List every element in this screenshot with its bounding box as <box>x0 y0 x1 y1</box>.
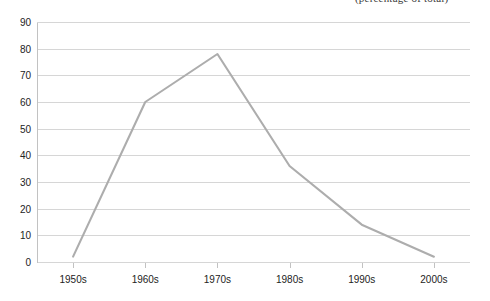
x-axis-tick-label: 1990s <box>348 274 375 285</box>
x-axis-tick-label: 2000s <box>420 274 447 285</box>
y-axis-tick-label: 40 <box>20 150 32 161</box>
y-axis-tick-label: 70 <box>20 70 32 81</box>
x-axis-tick-label: 1980s <box>276 274 303 285</box>
gridlines-group <box>37 23 470 263</box>
y-axis-tick-label: 50 <box>20 124 32 135</box>
y-axis-tick-label: 10 <box>20 230 32 241</box>
y-axis-tick-label: 90 <box>20 17 32 28</box>
y-axis-tick-label: 60 <box>20 97 32 108</box>
x-axis-tick-labels: 1950s1960s1970s1980s1990s2000s <box>59 274 447 285</box>
y-axis-tick-label: 80 <box>20 44 32 55</box>
line-chart-plot: 0102030405060708090 1950s1960s1970s1980s… <box>0 0 490 301</box>
y-axis-tick-labels: 0102030405060708090 <box>20 17 32 268</box>
x-axis-tick-marks <box>74 263 435 268</box>
x-axis-tick-label: 1970s <box>204 274 231 285</box>
y-axis-tick-label: 0 <box>25 257 31 268</box>
x-axis-tick-label: 1950s <box>59 274 86 285</box>
x-axis-tick-label: 1960s <box>132 274 159 285</box>
chart-container: (percentage of total) 010203040506070809… <box>0 0 490 301</box>
y-axis-tick-label: 20 <box>20 204 32 215</box>
y-axis-tick-label: 30 <box>20 177 32 188</box>
